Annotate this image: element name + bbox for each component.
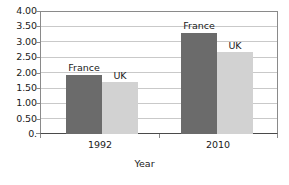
y-tick-label-2-00: 2.00 (16, 68, 37, 78)
bar-uk-2010[interactable] (217, 52, 253, 134)
bar-france-1992[interactable] (66, 75, 102, 135)
y-tick-label-1-00: 1.00 (16, 99, 37, 109)
bar-uk-1992[interactable] (102, 82, 138, 134)
x-tick-mark-center (159, 134, 160, 138)
x-tick-label-1992: 1992 (88, 140, 112, 150)
bar-france-2010[interactable] (181, 33, 217, 134)
y-tick-label-0-50: 0.50 (16, 114, 37, 124)
x-axis-title: Year (0, 159, 289, 169)
series-label-france-2010: France (183, 21, 215, 31)
y-tick-label-3-00: 3.00 (16, 37, 37, 47)
y-tick-label-3-50: 3.50 (16, 22, 37, 32)
x-tick-mark-left-edge (40, 134, 41, 138)
y-tick-label-4-00: 4.00 (16, 6, 37, 16)
series-label-france-1992: France (68, 63, 100, 73)
bar-chart: 4.00 3.50 3.00 2.50 2.00 1.50 1.00 0.50 … (0, 0, 289, 185)
x-axis-tick-marks (40, 134, 278, 139)
series-label-uk-1992: UK (113, 71, 126, 81)
y-tick-label-1-50: 1.50 (16, 83, 37, 93)
y-tick-label-2-50: 2.50 (16, 52, 37, 62)
x-tick-mark-right-edge (277, 134, 278, 138)
bars-layer: France UK France UK (41, 12, 277, 134)
y-axis-tick-labels: 4.00 3.50 3.00 2.50 2.00 1.50 1.00 0.50 … (0, 11, 37, 134)
series-label-uk-2010: UK (228, 41, 241, 51)
x-tick-label-2010: 2010 (206, 140, 230, 150)
